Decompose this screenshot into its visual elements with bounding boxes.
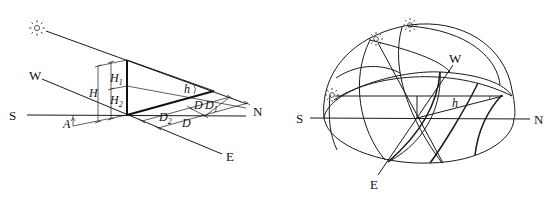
shadow-geometry-svg: S N W E H H1 H2 h A D D1 D2 D (0, 0, 280, 198)
label-D-bottom: D (181, 116, 191, 130)
meridian-arc-1 (359, 40, 385, 160)
sun-icon (29, 20, 45, 36)
south-north-axis (310, 118, 530, 119)
label-south: S (296, 111, 303, 126)
label-west: W (449, 51, 462, 66)
sun-icon (325, 88, 339, 102)
label-D-top: D (193, 98, 203, 112)
sun-icon (369, 32, 383, 46)
label-A: A (62, 117, 71, 131)
label-H: H (88, 86, 99, 100)
horizon-ellipse-back (324, 72, 512, 118)
altitude-angle-arc (194, 85, 196, 94)
south-north-axis (27, 115, 246, 116)
altitude-angle-arc (490, 96, 491, 100)
diurnal-path-1 (430, 83, 478, 163)
label-D2: D2 (158, 110, 172, 126)
azimuth-base-line (73, 115, 127, 126)
label-h: h (452, 96, 458, 110)
celestial-hemisphere-svg: S N W E h (290, 0, 558, 198)
shadow-geometry-diagram: S N W E H H1 H2 h A D D1 D2 D (0, 0, 280, 198)
label-east: E (370, 177, 378, 192)
label-D1: D1 (204, 98, 218, 114)
label-H1: H1 (109, 71, 123, 87)
celestial-hemisphere-diagram: S N W E h (290, 0, 558, 198)
dome-outline (324, 24, 515, 118)
diurnal-path-2 (475, 95, 502, 155)
label-north: N (534, 112, 544, 127)
label-north: N (253, 104, 263, 119)
pole-top-to-tip (127, 60, 214, 91)
label-h: h (184, 82, 190, 96)
label-south: S (9, 108, 16, 123)
label-west: W (29, 68, 42, 83)
sun-path-arc-2 (336, 66, 400, 78)
horizon-ellipse-front (324, 118, 514, 163)
sun-path-arc-1 (334, 77, 512, 100)
label-H2: H2 (109, 93, 123, 109)
label-east: E (226, 149, 234, 164)
